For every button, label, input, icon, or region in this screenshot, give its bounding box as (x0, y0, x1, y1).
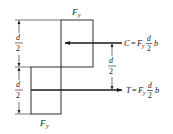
svg-text:=: = (131, 39, 136, 48)
stress-block-diagram: F y F y d 2 d 2 C = F y d 2 b (0, 0, 173, 134)
compression-label: C = F y d 2 b (124, 34, 158, 53)
lever-arm-dim: d 2 (108, 44, 116, 90)
svg-text:y: y (45, 123, 49, 129)
svg-text:b: b (154, 38, 158, 48)
svg-text:2: 2 (148, 91, 152, 100)
svg-text:d: d (147, 34, 151, 43)
svg-text:d: d (16, 33, 21, 42)
svg-text:2: 2 (16, 44, 20, 53)
left-dim-lower: d 2 (15, 68, 23, 114)
top-fy-label: F y (71, 7, 81, 18)
svg-text:2: 2 (147, 44, 151, 53)
svg-text:2: 2 (109, 67, 113, 76)
svg-text:F: F (39, 118, 46, 128)
svg-text:=: = (132, 86, 137, 95)
svg-text:F: F (71, 7, 78, 17)
svg-text:y: y (142, 90, 146, 96)
bottom-fy-label: F y (39, 118, 49, 129)
left-dim-upper: d 2 (15, 21, 23, 67)
svg-text:d: d (16, 80, 21, 89)
svg-text:C: C (124, 38, 130, 48)
svg-text:d: d (109, 56, 114, 65)
svg-text:d: d (148, 81, 152, 90)
tension-label: T = F y d 2 b (126, 81, 159, 100)
svg-text:y: y (141, 43, 145, 49)
svg-text:y: y (77, 12, 81, 18)
svg-text:b: b (155, 85, 159, 95)
svg-text:2: 2 (16, 91, 20, 100)
